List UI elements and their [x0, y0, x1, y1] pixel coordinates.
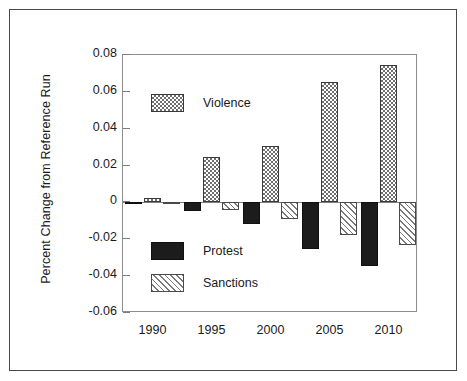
- bar-protest-1990: [125, 202, 143, 204]
- legend-swatch-protest-icon: [151, 242, 184, 260]
- x-tick-label: 2010: [357, 323, 421, 337]
- legend-item-protest: Protest: [151, 242, 243, 260]
- y-tick-mark: [123, 54, 130, 55]
- bar-violence-1990: [144, 198, 162, 203]
- y-tick-label: 0.08: [93, 46, 117, 60]
- bar-sanctions-1995: [222, 202, 240, 209]
- y-tick-mark: [123, 91, 130, 92]
- bar-violence-2000: [262, 146, 280, 202]
- bar-violence-1995: [203, 157, 221, 202]
- figure-root: Percent Change from Reference Run 0.080.…: [0, 0, 467, 381]
- bar-sanctions-2000: [281, 202, 299, 219]
- bar-sanctions-2005: [340, 202, 358, 234]
- y-tick-label: -0.04: [89, 267, 118, 281]
- bar-violence-2005: [321, 82, 339, 203]
- y-tick-label: 0.04: [93, 120, 117, 134]
- legend-swatch-violence-icon: [151, 94, 184, 112]
- legend-label-violence: Violence: [203, 96, 251, 110]
- bar-protest-2000: [243, 202, 261, 223]
- bar-protest-2005: [302, 202, 320, 249]
- y-tick-label: -0.02: [89, 230, 118, 244]
- x-tick-label: 2005: [298, 323, 362, 337]
- x-tick-label: 1990: [121, 323, 185, 337]
- y-tick-mark: [123, 312, 130, 313]
- bar-sanctions-2010: [399, 202, 417, 244]
- bar-violence-2010: [380, 65, 398, 202]
- legend-label-protest: Protest: [203, 244, 243, 258]
- y-tick-label: 0.02: [93, 157, 117, 171]
- legend-label-sanctions: Sanctions: [203, 276, 258, 290]
- legend-swatch-sanctions-icon: [151, 274, 184, 292]
- y-tick-mark: [123, 275, 130, 276]
- y-axis-title: Percent Change from Reference Run: [39, 59, 53, 299]
- y-tick-label: 0.06: [93, 83, 117, 97]
- y-tick-label: -0.06: [89, 304, 118, 318]
- bar-protest-2010: [361, 202, 379, 266]
- legend-item-sanctions: Sanctions: [151, 274, 258, 292]
- legend-item-violence: Violence: [151, 94, 251, 112]
- y-tick-mark: [123, 238, 130, 239]
- x-tick-label: 2000: [239, 323, 303, 337]
- plot-area: 0.080.060.040.020-0.02-0.04-0.06 1990199…: [122, 54, 417, 312]
- y-tick-mark: [123, 128, 130, 129]
- y-tick-label: 0: [110, 193, 117, 207]
- bar-sanctions-1990: [163, 202, 181, 204]
- bar-protest-1995: [184, 202, 202, 210]
- y-tick-mark: [123, 165, 130, 166]
- x-tick-label: 1995: [180, 323, 244, 337]
